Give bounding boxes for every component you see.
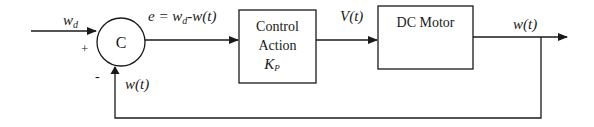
summing-junction: C — [97, 18, 145, 66]
controller-line2: Action — [258, 38, 296, 53]
control-block-diagram: wd + C e = wd-w(t) Control Action KP V(t… — [0, 0, 594, 127]
plus-sign: + — [81, 41, 88, 56]
feedback-line — [115, 37, 541, 118]
feedback-arrowhead — [111, 66, 120, 74]
control-signal-label: V(t) — [340, 8, 363, 25]
error-signal: e = wd-w(t) — [145, 8, 238, 40]
control-signal: V(t) — [316, 8, 377, 40]
output-label: w(t) — [513, 16, 537, 33]
feedback-label: w(t) — [125, 76, 149, 93]
output-signal: w(t) — [473, 16, 567, 37]
error-label: e = wd-w(t) — [148, 8, 216, 26]
input-label: wd — [63, 12, 79, 30]
plant-label: DC Motor — [397, 15, 455, 30]
minus-sign: - — [95, 69, 100, 84]
controller-block: Control Action KP — [239, 10, 316, 83]
controller-line1: Control — [256, 19, 299, 34]
feedback-path: - w(t) — [95, 37, 541, 118]
summing-junction-label: C — [116, 34, 127, 51]
input-signal: wd + — [31, 12, 96, 56]
plant-block: DC Motor — [378, 6, 473, 69]
